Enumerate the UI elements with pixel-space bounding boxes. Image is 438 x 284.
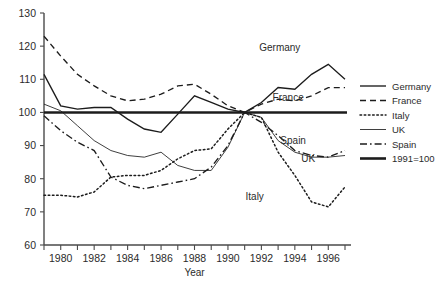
annotation-spain: Spain: [280, 135, 306, 146]
x-axis-tick-label: 1994: [283, 252, 307, 264]
annotation-italy: Italy: [246, 191, 264, 202]
y-axis-tick-label: 130: [18, 7, 36, 19]
y-axis-tick-label: 90: [24, 139, 36, 151]
x-axis-tick-label: 1980: [49, 252, 73, 264]
legend-label-uk: UK: [392, 124, 406, 135]
x-axis: 198019821984198619881990199219941996: [44, 245, 351, 264]
series-annotations: GermanyFranceSpainUKItaly: [246, 42, 316, 202]
line-chart: 60708090100110120130 1980198219841986198…: [0, 0, 438, 284]
x-axis-tick-label: 1990: [216, 252, 240, 264]
y-axis: 60708090100110120130: [18, 7, 44, 251]
y-axis-tick-label: 120: [18, 40, 36, 52]
x-axis-title: Year: [184, 267, 205, 278]
x-axis-tick-label: 1996: [317, 252, 341, 264]
legend-label-italy: Italy: [392, 110, 410, 121]
legend-label-germany: Germany: [392, 81, 431, 92]
legend-label-spain: Spain: [392, 139, 416, 150]
chart-legend: GermanyFranceItalyUKSpain1991=100: [360, 81, 435, 165]
legend-label-1991-100: 1991=100: [392, 153, 435, 164]
y-axis-tick-label: 110: [19, 73, 36, 85]
annotation-uk: UK: [301, 153, 315, 164]
annotation-france: France: [273, 92, 305, 103]
x-axis-tick-label: 1986: [149, 252, 173, 264]
y-axis-tick-label: 100: [18, 106, 36, 118]
series-lines: [44, 36, 347, 207]
x-axis-tick-label: 1992: [250, 252, 274, 264]
legend-label-france: France: [392, 95, 422, 106]
y-axis-tick-label: 80: [24, 173, 36, 185]
y-axis-tick-label: 60: [24, 239, 36, 251]
series-line-italy: [44, 112, 345, 206]
x-axis-tick-label: 1982: [82, 252, 106, 264]
x-axis-tick-label: 1984: [116, 252, 140, 264]
chart-container: 60708090100110120130 1980198219841986198…: [0, 0, 438, 284]
x-axis-tick-label: 1988: [183, 252, 207, 264]
annotation-germany: Germany: [259, 42, 300, 53]
y-axis-tick-label: 70: [24, 206, 36, 218]
